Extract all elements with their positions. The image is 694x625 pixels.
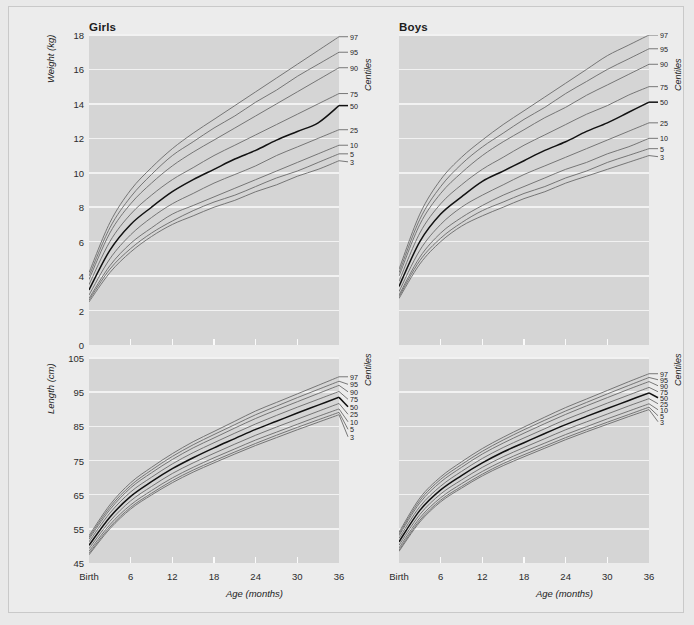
leader-line-90 <box>339 385 348 391</box>
x-axis-title-boys: Age (months) <box>536 588 593 599</box>
y-tick-label: 0 <box>79 340 84 351</box>
centile-label-97: 97 <box>660 31 668 40</box>
centile-label-25: 25 <box>350 125 358 134</box>
centile-curve-90 <box>399 64 649 276</box>
plot-area-boys-weight <box>399 35 649 345</box>
centile-label-95: 95 <box>350 48 358 57</box>
centile-label-97: 97 <box>350 32 358 41</box>
centile-curve-5 <box>89 154 339 300</box>
centile-curve-50 <box>89 106 339 290</box>
centile-curve-3 <box>89 415 339 555</box>
centile-curve-3 <box>399 156 649 299</box>
y-tick-label: 105 <box>68 353 84 364</box>
centile-label-75: 75 <box>660 82 668 91</box>
centile-label-10: 10 <box>660 134 668 143</box>
centile-curve-10 <box>399 138 649 295</box>
x-tick-label: 30 <box>292 571 303 582</box>
plot-area-boys-length <box>399 358 649 563</box>
centile-label-90: 90 <box>660 60 668 69</box>
y-tick-label: 14 <box>73 98 84 109</box>
panel-girls-length: Length (cm) Centiles Age (months) 455565… <box>61 352 351 597</box>
leader-line-50 <box>649 393 658 398</box>
plot-area-girls-weight <box>89 35 339 345</box>
centile-curve-25 <box>399 123 649 292</box>
y-tick-label: 6 <box>79 236 84 247</box>
centile-curve-25 <box>89 130 339 295</box>
x-tick-label: Birth <box>79 571 99 582</box>
y-tick-label: 8 <box>79 202 84 213</box>
centile-curve-95 <box>399 377 649 533</box>
panel-boys-weight: Boys Centiles 9795907550251053 <box>371 21 661 346</box>
centile-curve-5 <box>399 149 649 297</box>
x-tick-label: 30 <box>602 571 613 582</box>
centile-curve-97 <box>89 377 339 536</box>
centile-leader-lines <box>649 35 659 345</box>
centile-label-95: 95 <box>660 44 668 53</box>
x-tick-label: Birth <box>389 571 409 582</box>
leader-line-90 <box>649 382 658 386</box>
x-tick-label: 24 <box>250 571 261 582</box>
panel-girls-weight: Girls Weight (kg) Centiles 0246810121416… <box>61 21 351 346</box>
centile-curve-3 <box>89 161 339 302</box>
centile-leader-lines <box>339 358 349 563</box>
x-tick-label: 12 <box>477 571 488 582</box>
centile-label-3: 3 <box>350 157 354 166</box>
centile-curve-10 <box>399 404 649 548</box>
centile-curves <box>399 35 649 345</box>
x-tick-label: 6 <box>438 571 443 582</box>
centile-curve-90 <box>89 385 339 539</box>
centile-curve-97 <box>399 374 649 533</box>
x-tick-label: 24 <box>560 571 571 582</box>
plot-area-girls-length <box>89 358 339 563</box>
leader-line-3 <box>339 415 348 437</box>
leader-line-3 <box>339 161 348 162</box>
leader-line-95 <box>649 377 658 379</box>
x-tick-label: 18 <box>209 571 220 582</box>
centile-curve-95 <box>89 52 339 276</box>
y-tick-label: 12 <box>73 133 84 144</box>
leader-line-25 <box>649 399 658 404</box>
centile-curve-50 <box>89 397 339 545</box>
centile-curves <box>399 358 649 563</box>
y-tick-label: 75 <box>73 455 84 466</box>
centile-label-3: 3 <box>350 432 354 441</box>
centile-curve-10 <box>89 145 339 298</box>
y-tick-label: 18 <box>73 30 84 41</box>
y-tick-label: 95 <box>73 387 84 398</box>
centile-curve-95 <box>89 381 339 537</box>
y-axis-title-weight-girls: Weight (kg) <box>45 35 56 83</box>
centile-curve-5 <box>89 412 339 553</box>
y-tick-label: 65 <box>73 489 84 500</box>
centile-leader-lines <box>649 358 659 563</box>
centile-curve-90 <box>399 382 649 536</box>
x-tick-label: 12 <box>167 571 178 582</box>
y-tick-label: 2 <box>79 305 84 316</box>
centile-label-90: 90 <box>350 63 358 72</box>
y-tick-label: 85 <box>73 421 84 432</box>
leader-line-75 <box>649 387 658 391</box>
leader-line-3 <box>649 156 658 157</box>
y-tick-label: 55 <box>73 523 84 534</box>
y-axis-title-length-girls: Length (cm) <box>45 363 56 414</box>
growth-chart-page: Girls Weight (kg) Centiles 0246810121416… <box>8 6 684 613</box>
centile-label-75: 75 <box>350 89 358 98</box>
y-tick-label: 45 <box>73 558 84 569</box>
centile-curve-5 <box>399 407 649 550</box>
centile-label-50: 50 <box>350 101 358 110</box>
centile-curve-50 <box>399 393 649 542</box>
centile-curve-10 <box>89 409 339 551</box>
centile-label-25: 25 <box>660 118 668 127</box>
x-tick-label: 36 <box>334 571 345 582</box>
centiles-title-boys-length: Centiles <box>673 353 683 386</box>
centile-curve-75 <box>399 387 649 538</box>
x-tick-label: 18 <box>519 571 530 582</box>
centile-curves <box>89 358 339 563</box>
y-tick-label: 4 <box>79 271 84 282</box>
centile-curve-75 <box>89 391 339 541</box>
y-tick-label: 10 <box>73 167 84 178</box>
leader-line-95 <box>339 381 348 384</box>
panel-title-boys: Boys <box>399 21 428 33</box>
centile-label-3: 3 <box>660 152 664 161</box>
centiles-title-boys-weight: Centiles <box>673 58 683 91</box>
centile-curve-75 <box>399 87 649 282</box>
